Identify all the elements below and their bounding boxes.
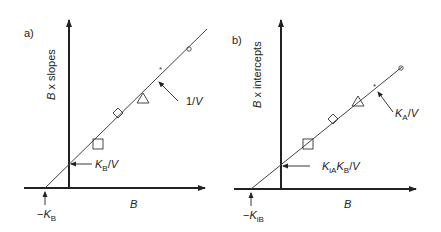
panel-b-x-axis-label: B [344,198,351,210]
panel-b-slope-label: KA/V [395,107,420,122]
panel-b-x-intercept-label: −KiB [243,209,264,224]
star-marker: * [159,65,162,74]
y-axis-label-text: x slopes [45,49,57,93]
secondary-plots-figure: a) B x slopes * KB/V −KB 1/V B b) B x in… [0,0,441,232]
panel-a-label: a) [24,27,34,39]
star-marker: * [373,82,376,91]
panel-b-y-intercept-label: KiAKB/V [322,160,361,175]
panel-b-y-axis-label: B x intercepts [251,41,263,108]
panel-a: a) B x slopes * KB/V −KB 1/V B [24,20,207,223]
triangle-marker [352,96,364,106]
square-marker [93,139,103,149]
panel-b: b) B x intercepts * KiAKB/V −KiB KA/V B [232,20,420,224]
panel-a-slope-arrow [159,82,178,101]
panel-a-y-intercept-label: KB/V [95,158,120,173]
panel-a-slope-label: 1/V [186,95,204,107]
circle-marker [187,47,191,51]
panel-b-label: b) [232,34,242,46]
panel-a-x-axis-label: B [130,198,137,210]
panel-a-y-axis-label: B x slopes [45,49,57,100]
panel-b-slope-arrow [378,92,393,112]
triangle-marker [137,93,149,103]
panel-a-x-intercept-label: −KB [37,208,56,223]
y-axis-label-text: x intercepts [251,41,263,101]
